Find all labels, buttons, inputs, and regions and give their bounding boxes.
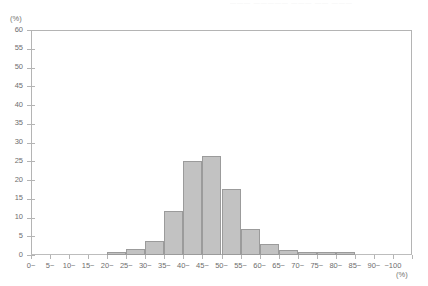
x-axis-tick-mark (279, 255, 280, 259)
x-axis-tick-mark (336, 255, 337, 259)
x-axis-tick-mark (126, 255, 127, 259)
x-axis-tick-mark (412, 255, 413, 259)
x-axis-tick-label: 80~ (329, 261, 342, 270)
x-axis-tick-mark (88, 255, 89, 259)
x-axis-tick-label: 20~ (101, 261, 114, 270)
x-axis-tick-label: 25~ (120, 261, 133, 270)
x-axis-tick-label: ~100 (384, 261, 401, 270)
x-axis-tick-mark (260, 255, 261, 259)
x-axis-tick-mark (393, 255, 394, 259)
x-axis-tick-mark (50, 255, 51, 259)
x-axis-tick-label: 75~ (310, 261, 323, 270)
x-axis-tick-mark (145, 255, 146, 259)
x-axis-tick-mark (69, 255, 70, 259)
x-axis-tick-mark (31, 255, 32, 259)
x-axis-tick-label: 0~ (27, 261, 36, 270)
x-axis: 0~5~10~15~20~25~30~35~40~45~50~55~60~65~… (0, 0, 428, 286)
x-axis-tick-mark (298, 255, 299, 259)
x-axis-tick-mark (222, 255, 223, 259)
x-axis-tick-label: 70~ (291, 261, 304, 270)
x-axis-tick-label: 60~ (253, 261, 266, 270)
x-axis-tick-label: 85~ (348, 261, 361, 270)
x-axis-tick-mark (164, 255, 165, 259)
x-axis-tick-label: 30~ (139, 261, 152, 270)
x-axis-tick-mark (355, 255, 356, 259)
x-axis-tick-label: 65~ (272, 261, 285, 270)
x-axis-tick-label: 5~ (46, 261, 55, 270)
x-axis-tick-mark (202, 255, 203, 259)
x-axis-tick-label: 35~ (158, 261, 171, 270)
x-axis-tick-mark (107, 255, 108, 259)
x-axis-tick-mark (183, 255, 184, 259)
x-axis-tick-label: 10~ (63, 261, 76, 270)
x-axis-tick-label: 40~ (177, 261, 190, 270)
x-axis-tick-label: 90~ (368, 261, 381, 270)
x-axis-unit-label: (%) (396, 270, 408, 279)
x-axis-tick-label: 55~ (234, 261, 247, 270)
x-axis-tick-mark (317, 255, 318, 259)
x-axis-tick-label: 50~ (215, 261, 228, 270)
histogram-chart: ――― ――――― ――― ―― ――― (%) 051015202530354… (0, 0, 428, 286)
x-axis-tick-label: 15~ (82, 261, 95, 270)
x-axis-tick-label: 45~ (196, 261, 209, 270)
x-axis-tick-mark (374, 255, 375, 259)
x-axis-tick-mark (241, 255, 242, 259)
